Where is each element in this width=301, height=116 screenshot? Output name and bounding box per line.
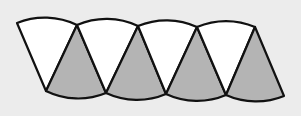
sector-strip-svg <box>0 0 301 116</box>
sector-strip-diagram <box>0 0 301 116</box>
